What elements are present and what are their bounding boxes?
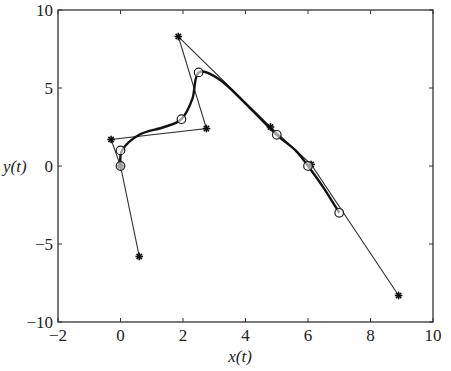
x-tick-label: 6 (304, 326, 313, 345)
circle-marker (194, 68, 203, 77)
y-axis-label: y(t) (1, 157, 27, 176)
x-tick-labels: −20246810 (49, 326, 442, 345)
circle-marker (116, 146, 125, 155)
star-marker (395, 292, 403, 300)
circle-marker (335, 209, 344, 218)
circle-marker (177, 115, 186, 124)
x-tick-label: 8 (366, 326, 375, 345)
circle-marker (272, 131, 281, 140)
y-tick-label: 10 (36, 1, 53, 20)
y-tick-label: −5 (35, 235, 53, 254)
circle-marker (116, 162, 125, 171)
y-tick-label: 5 (45, 79, 54, 98)
y-tick-label: −10 (26, 313, 53, 332)
y-tick-labels: −10−50510 (26, 1, 53, 332)
circle-marker (304, 162, 313, 171)
star-marker (267, 123, 275, 131)
x-tick-label: 10 (425, 326, 442, 345)
x-tick-label: 4 (241, 326, 250, 345)
star-marker (175, 33, 183, 41)
chart-figure: −20246810 −10−50510 x(t) y(t) (0, 0, 451, 371)
x-axis-label: x(t) (227, 347, 252, 366)
star-marker (203, 125, 211, 133)
plot-area (58, 10, 433, 322)
y-tick-label: 0 (45, 157, 54, 176)
x-tick-label: 2 (179, 326, 188, 345)
x-tick-label: 0 (116, 326, 125, 345)
